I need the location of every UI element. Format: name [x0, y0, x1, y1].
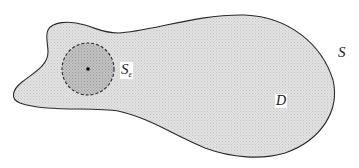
- small-sphere-label-subscript: ε: [129, 69, 133, 79]
- region-diagram: [0, 0, 359, 168]
- boundary-label-s: S: [337, 45, 347, 60]
- boundary-label-text: S: [338, 44, 346, 60]
- center-point: [86, 67, 90, 71]
- small-sphere-label: Sε: [120, 62, 133, 79]
- small-sphere-label-text: S: [121, 61, 129, 77]
- region-label-text: D: [276, 93, 286, 108]
- region-label-d: D: [275, 94, 287, 108]
- region-d-boundary-s: [13, 15, 334, 157]
